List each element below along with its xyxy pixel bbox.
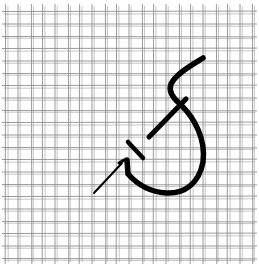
stitch-short [128,142,143,158]
stitch-diagonal [149,99,186,137]
needle-eye [119,160,124,163]
canvas-mesh-grid [2,4,257,264]
yarn-stitch [94,58,203,193]
stitch-loop [127,58,203,193]
needle [94,163,122,193]
needlepoint-illustration: needlepoint stitch on canvas mesh [0,0,259,268]
canvas-mesh-diagram [0,0,259,268]
